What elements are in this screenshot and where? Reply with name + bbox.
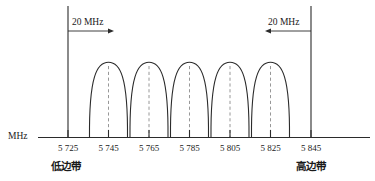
right-guard-arrow: [265, 29, 311, 34]
right-guard-band-label: 20 MHz: [268, 18, 299, 28]
left-guard-band-label: 20 MHz: [72, 18, 103, 28]
axis-unit-label: MHz: [8, 132, 28, 142]
axis-tick-marks: [68, 130, 311, 138]
spectrum-plot-svg: [0, 0, 375, 181]
tick-label-5785: 5 785: [170, 144, 210, 153]
spectrum-diagram: 20 MHz 20 MHz MHz 5 725 5 745 5 765 5 78…: [0, 0, 375, 181]
lower-sideband-label: 低边带: [51, 161, 81, 172]
left-guard-arrow: [68, 29, 114, 34]
tick-label-5825: 5 825: [251, 144, 291, 153]
tick-label-5765: 5 765: [129, 144, 169, 153]
tick-label-5725: 5 725: [48, 144, 88, 153]
channel-center-dashed-lines: [109, 66, 271, 137]
tick-label-5805: 5 805: [210, 144, 250, 153]
tick-label-5745: 5 745: [89, 144, 129, 153]
upper-sideband-label: 高边带: [296, 161, 326, 172]
tick-label-5845: 5 845: [291, 144, 331, 153]
